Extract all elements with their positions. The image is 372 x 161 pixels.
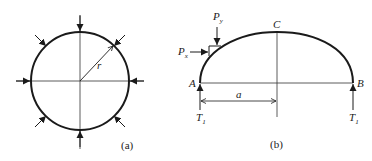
half-ellipse-arch — [200, 32, 353, 83]
arrow-icon-bottom-left — [35, 116, 46, 127]
caption-b: (b) — [270, 138, 283, 151]
arrow-icon-top-right — [114, 35, 125, 46]
arrow-icon-top-left — [35, 35, 46, 46]
force-label-py: Py — [212, 10, 224, 25]
reaction-label-left: T1 — [196, 111, 206, 126]
radius-label: r — [97, 59, 102, 71]
point-label-b: B — [357, 77, 364, 89]
figure-canvas: r (a) a A B C Py — [0, 0, 372, 161]
figure-a-ring: r (a) — [16, 15, 144, 152]
force-label-px: Px — [177, 45, 189, 60]
point-label-c: C — [273, 18, 281, 30]
caption-a: (a) — [121, 139, 134, 152]
figure-b-arch: a A B C Py Px T1 T1 (b) — [177, 10, 364, 151]
arrow-icon-bottom-right — [114, 116, 125, 127]
reaction-label-right: T1 — [349, 111, 359, 126]
point-label-a: A — [188, 77, 196, 89]
dimension-label-a: a — [236, 88, 242, 100]
